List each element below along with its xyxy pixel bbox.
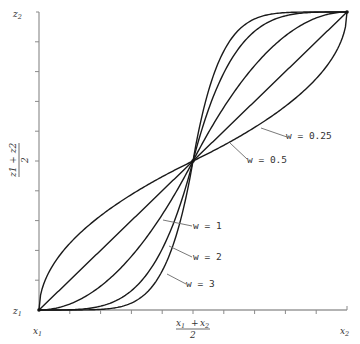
label-w025: w = 0.25 [286,130,332,141]
leader-w05 [230,143,247,159]
leader-w3 [167,274,186,284]
label-w3: w = 3 [186,278,215,289]
label-w05: w = 0.5 [247,154,287,165]
y-label-mid: z1 + z2 2 [8,143,30,178]
x-label-mid: x1 + x2 2 [176,318,210,340]
y-label-bottom: z1 [12,306,22,318]
svg-text:2: 2 [20,157,30,164]
leader-w1 [163,220,192,226]
label-w2: w = 2 [193,251,222,262]
svg-text:2: 2 [189,330,196,340]
center-point [191,159,195,163]
origin-point [37,308,41,312]
end-point [345,10,349,14]
y-label-top: z2 [12,9,22,21]
svg-text:z1 + z2: z1 + z2 [8,143,18,178]
svg-text:+: + [191,318,199,328]
x-label-right: x2 [340,326,349,338]
leader-w025 [261,128,287,137]
leader-w2 [169,246,192,257]
x-label-left: x1 [33,326,42,338]
svg-text:x1: x1 [176,318,185,330]
svg-text:x2: x2 [200,318,209,330]
chart: w = 0.25 w = 0.5 w = 1 w = 2 w = 3 x1 x2… [0,0,360,344]
label-w1: w = 1 [193,220,222,231]
